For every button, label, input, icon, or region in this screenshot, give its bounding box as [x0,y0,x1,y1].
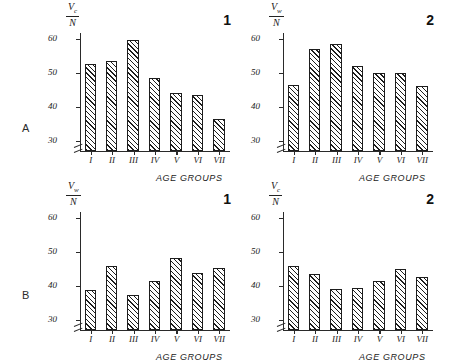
bar [85,290,97,330]
row-label-a: A [22,122,29,134]
bar-slot [390,33,411,151]
y-tick-group: 50 [263,252,284,253]
bar-slot [412,212,433,330]
bar-series [283,33,433,151]
y-tick-label: 30 [251,314,260,324]
bar-slot [283,212,304,330]
y-axis-label-b2: VcN [269,181,282,207]
y-tick-group: 30 [60,141,81,142]
y-tick-group: 40 [263,107,284,108]
bar-slot [326,33,347,151]
y-axis-label-subscript: c [74,7,77,15]
bar [416,86,428,151]
bar [127,40,139,151]
y-axis-label-denominator: N [66,196,81,207]
bar-slot [80,212,101,330]
bar-slot [412,33,433,151]
x-tick-label: VII [209,155,230,165]
bar [395,269,407,330]
x-tick-labels: IIIIIIIVVVIVII [283,334,433,348]
x-tick-label: III [123,334,144,344]
y-axis-label-numerator: Vc [66,2,79,17]
x-tick-label: IV [144,155,165,165]
x-tick-label: II [304,155,325,165]
bar [106,61,118,151]
y-tick-label: 60 [251,33,260,43]
y-tick-group: 50 [263,73,284,74]
x-tick-label: III [326,334,347,344]
bar-slot [80,33,101,151]
y-tick-label: 60 [48,33,57,43]
x-tick-label: I [283,334,304,344]
bar-slot [166,33,187,151]
bar [192,273,204,330]
y-tick-group: 30 [263,320,284,321]
y-tick-label: 50 [251,246,260,256]
bar-slot [101,212,122,330]
bar [416,277,428,330]
panel-number-a2: 2 [426,12,434,28]
bar-slot [144,33,165,151]
bar [213,119,225,151]
bar [85,64,97,151]
x-axis-title: AGE GROUPS [156,352,223,362]
x-tick-label: VI [187,334,208,344]
bar [309,49,321,151]
x-tick-label: I [283,155,304,165]
bar-slot [347,33,368,151]
y-tick-group: 40 [60,107,81,108]
x-tick-label: II [101,155,122,165]
y-tick-label: 30 [48,314,57,324]
bar [149,78,161,151]
x-tick-label: VI [390,155,411,165]
y-tick-group: 30 [60,320,81,321]
bar-slot [369,212,390,330]
y-axis-label-subscript: w [277,7,282,15]
y-tick-label: 60 [251,212,260,222]
y-tick-group: 30 [263,141,284,142]
bar-slot [369,33,390,151]
y-axis-label-numerator: Vc [269,181,282,196]
x-tick-label: V [369,334,390,344]
bar-slot [123,212,144,330]
x-tick-label: VI [390,334,411,344]
y-tick-label: 30 [48,135,57,145]
bar [170,258,182,329]
bar-slot [347,212,368,330]
x-tick-label: VI [187,155,208,165]
chart-panel-b1: 1VwN30405060IIIIIIIVVVIVIIAGE GROUPS [52,179,237,358]
bar-slot [123,33,144,151]
y-axis-label-b1: VwN [66,181,81,207]
bar [149,281,161,330]
y-tick-label: 50 [48,67,57,77]
y-tick-label: 40 [48,101,57,111]
panel-number-b1: 1 [223,191,231,207]
bar-slot [390,212,411,330]
bar-series [80,212,230,330]
x-tick-label: I [80,334,101,344]
x-tick-label: IV [347,334,368,344]
x-axis-title: AGE GROUPS [359,352,426,362]
bar-series [80,33,230,151]
bar [330,289,342,330]
x-tick-label: IV [144,334,165,344]
y-tick-label: 40 [251,280,260,290]
chart-panel-a2: 2VwN30405060IIIIIIIVVVIVIIAGE GROUPS [255,0,440,179]
bar [373,73,385,151]
y-axis-label-a2: VwN [269,2,284,28]
bar-slot [187,212,208,330]
x-tick-label: I [80,155,101,165]
x-tick-label: III [326,155,347,165]
y-tick-group: 60 [263,39,284,40]
plot-area-b2: 30405060IIIIIIIVVVIVIIAGE GROUPS [263,212,433,331]
bar-slot [326,212,347,330]
y-axis-label-subscript: c [277,186,280,194]
y-tick-label: 30 [251,135,260,145]
bar [288,85,300,151]
panel-number-a1: 1 [223,12,231,28]
x-tick-label: V [166,155,187,165]
bar-slot [144,212,165,330]
bar-slot [101,33,122,151]
y-axis-label-numerator: Vw [269,2,284,17]
